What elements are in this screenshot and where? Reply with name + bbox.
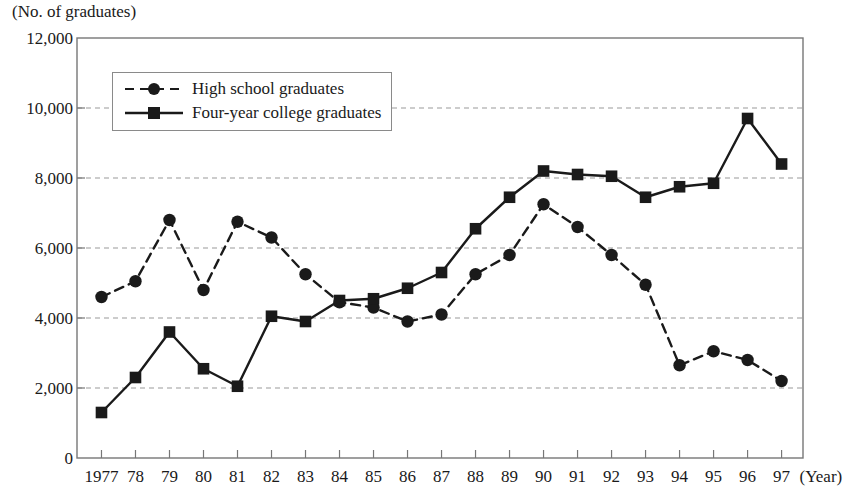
data-point-marker — [198, 363, 210, 375]
data-point-marker — [537, 198, 549, 210]
data-point-marker — [96, 407, 108, 419]
y-axis-tick-label: 12,000 — [3, 30, 73, 47]
x-axis-tick-label: 88 — [467, 468, 484, 485]
x-axis-title: (Year) — [800, 467, 843, 487]
data-point-marker — [197, 284, 209, 296]
data-point-marker — [231, 216, 243, 228]
data-point-marker — [266, 310, 278, 322]
data-point-marker — [164, 326, 176, 338]
data-point-marker — [606, 170, 618, 182]
data-point-marker — [300, 316, 312, 328]
legend-item-high-school: High school graduates — [123, 77, 381, 101]
data-point-marker — [232, 380, 244, 392]
x-axis-tick-label: 87 — [433, 468, 450, 485]
data-point-marker — [707, 345, 719, 357]
data-point-marker — [402, 282, 414, 294]
data-point-marker — [741, 354, 753, 366]
x-axis-tick-label: 89 — [501, 468, 518, 485]
y-axis-tick-labels: 02,0004,0006,0008,00010,00012,000 — [0, 0, 73, 501]
y-axis-tick-label: 8,000 — [3, 170, 73, 187]
x-axis-tick-label: 80 — [195, 468, 212, 485]
y-axis-tick-label: 4,000 — [3, 310, 73, 327]
data-point-marker — [265, 231, 277, 243]
x-axis-tick-label: 96 — [739, 468, 756, 485]
data-point-marker — [674, 181, 686, 193]
data-point-marker — [470, 223, 482, 235]
data-point-marker — [673, 359, 685, 371]
y-axis-tick-label: 10,000 — [3, 100, 73, 117]
data-point-marker — [572, 169, 584, 181]
x-axis-tick-label: 1977 — [84, 468, 118, 485]
x-axis-tick-label: 84 — [331, 468, 348, 485]
graduates-line-chart: (No. of graduates) 02,0004,0006,0008,000… — [0, 0, 865, 501]
data-point-marker — [401, 315, 413, 327]
x-axis-tick-label: 79 — [161, 468, 178, 485]
x-axis-tick-label: 93 — [637, 468, 654, 485]
data-point-marker — [503, 249, 515, 261]
data-point-marker — [775, 375, 787, 387]
data-point-marker — [708, 177, 720, 189]
legend-label-high-school: High school graduates — [192, 80, 344, 98]
data-point-marker — [469, 268, 481, 280]
data-point-marker — [640, 191, 652, 203]
x-axis-tick-label: 78 — [127, 468, 144, 485]
x-axis-tick-label: 81 — [229, 468, 246, 485]
data-point-marker — [605, 249, 617, 261]
data-point-marker — [95, 291, 107, 303]
legend-marker-square-solid-icon — [123, 104, 185, 122]
data-point-marker — [639, 279, 651, 291]
data-point-marker — [435, 308, 447, 320]
x-axis-tick-label: 97 — [773, 468, 790, 485]
legend-marker-circle-dashed-icon — [123, 80, 185, 98]
x-axis-tick-label: 95 — [705, 468, 722, 485]
x-axis-tick-label: 82 — [263, 468, 280, 485]
x-axis-tick-label: 94 — [671, 468, 688, 485]
data-point-marker — [776, 158, 788, 170]
data-point-marker — [742, 113, 754, 125]
data-point-marker — [129, 275, 141, 287]
data-point-marker — [299, 268, 311, 280]
data-point-marker — [436, 267, 448, 279]
data-point-marker — [571, 221, 583, 233]
data-point-marker — [538, 165, 550, 177]
data-point-marker — [504, 191, 516, 203]
y-axis-tick-label: 0 — [3, 450, 73, 467]
x-axis-tick-label: 90 — [535, 468, 552, 485]
chart-legend: High school graduates Four-year college … — [112, 72, 392, 131]
x-axis-tick-label: 86 — [399, 468, 416, 485]
x-axis-tick-label: 92 — [603, 468, 620, 485]
x-axis-tick-label: 91 — [569, 468, 586, 485]
x-axis-tick-label: 85 — [365, 468, 382, 485]
x-axis-tick-label: 83 — [297, 468, 314, 485]
legend-label-four-year-college: Four-year college graduates — [192, 104, 381, 122]
y-axis-tick-label: 6,000 — [3, 240, 73, 257]
data-point-marker — [163, 214, 175, 226]
y-axis-tick-label: 2,000 — [3, 380, 73, 397]
legend-item-four-year-college: Four-year college graduates — [123, 101, 381, 125]
data-point-marker — [334, 295, 346, 307]
data-point-marker — [130, 372, 142, 384]
data-point-marker — [368, 293, 380, 305]
